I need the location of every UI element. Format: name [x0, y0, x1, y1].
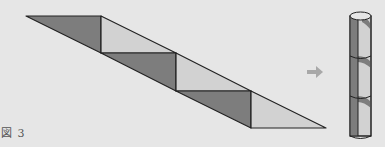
- arrow-icon: [307, 66, 323, 78]
- dark-triangle-1: [26, 16, 101, 53]
- figure-diagram: [0, 0, 385, 147]
- dark-triangle-2: [101, 53, 176, 91]
- dark-triangle-3: [176, 91, 251, 128]
- cylinder: [350, 12, 371, 139]
- figure-caption: 図 3: [1, 124, 26, 140]
- light-triangle-3: [251, 91, 326, 128]
- light-triangle-1: [101, 16, 176, 53]
- flat-strip: [26, 16, 326, 128]
- light-triangle-2: [176, 53, 251, 91]
